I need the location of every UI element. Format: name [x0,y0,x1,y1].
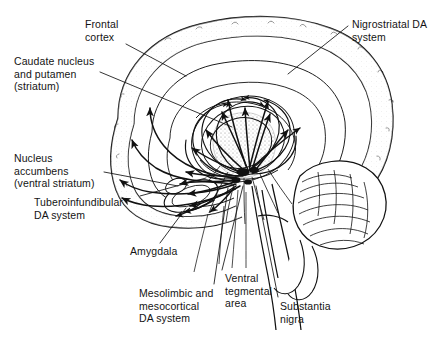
label-mesolimbic: Mesolimbic and mesocortical DA system [139,287,213,325]
label-amygdala: Amygdala [130,245,178,258]
label-caudate-putamen: Caudate nucleus and putamen (striatum) [14,55,94,93]
figure-page: Frontal cortex Caudate nucleus and putam… [0,0,436,342]
label-frontal-cortex: Frontal cortex [85,18,118,43]
label-substantia-nigra: Substantia nigra [280,300,331,325]
label-nigrostriatal: Nigrostriatal DA system [352,18,427,43]
label-nucleus-accumbens: Nucleus accumbens (ventral striatum) [14,152,95,190]
label-tuberoinfundibular: Tuberoinfundibular DA system [34,196,123,221]
label-ventral-tegmental: Ventral tegmental area [225,272,272,310]
